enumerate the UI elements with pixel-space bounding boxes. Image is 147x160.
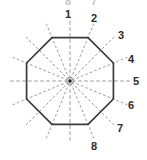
spoke-6 — [72, 83, 114, 125]
vertex-label-3: 3 — [118, 30, 124, 41]
spoke-7 — [71, 83, 94, 138]
spoke-1 — [71, 24, 94, 79]
spoke-3 — [72, 57, 127, 80]
spoke-13 — [13, 57, 68, 80]
clipped-label-0: 8 — [65, 0, 71, 7]
spoke-10 — [26, 83, 68, 125]
spoke-9 — [46, 83, 69, 138]
vertex-label-7: 7 — [117, 123, 123, 134]
vertex-label-2: 2 — [91, 13, 97, 24]
spoke-14 — [26, 37, 68, 79]
vertex-label-8: 8 — [91, 141, 97, 152]
center-dot-icon — [68, 79, 71, 82]
diagram-canvas — [0, 0, 147, 160]
spoke-5 — [72, 82, 127, 105]
vertex-label-1: 1 — [65, 9, 71, 20]
spoke-11 — [13, 82, 68, 105]
spoke-15 — [46, 24, 69, 79]
vertex-label-4: 4 — [128, 54, 134, 65]
vertex-label-6: 6 — [128, 100, 134, 111]
vertex-label-5: 5 — [133, 76, 139, 87]
octagon-diagram: 12345678 87 — [0, 0, 147, 160]
clipped-label-1: 7 — [91, 0, 97, 7]
spoke-2 — [72, 37, 114, 79]
